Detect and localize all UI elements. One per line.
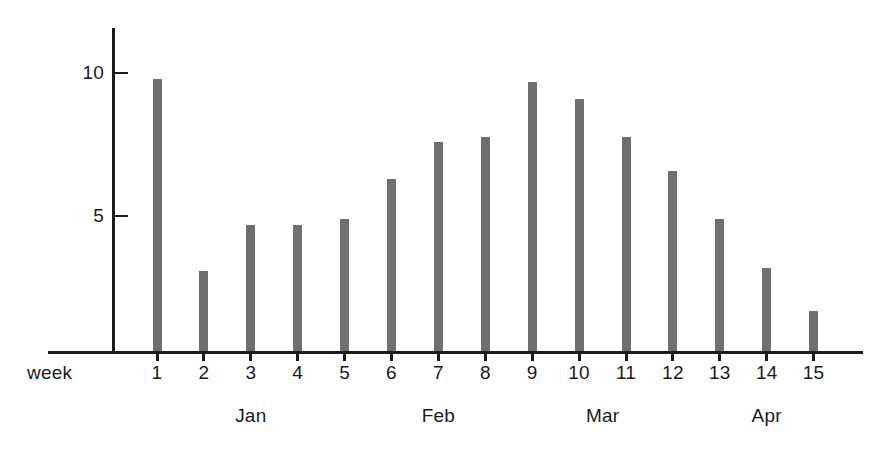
x-axis-tick: [343, 354, 346, 361]
x-axis-tick: [437, 354, 440, 361]
x-axis-tick-label: 8: [465, 362, 505, 384]
bar: [622, 137, 631, 352]
x-axis-tick-label: 13: [700, 362, 740, 384]
bar: [340, 219, 349, 351]
x-axis-tick-label: 3: [231, 362, 271, 384]
x-axis-tick: [765, 354, 768, 361]
x-axis-tick: [671, 354, 674, 361]
bar: [528, 82, 537, 351]
bar: [809, 311, 818, 351]
x-axis-tick: [156, 354, 159, 361]
month-label-mar: Mar: [543, 405, 663, 427]
bar: [293, 225, 302, 351]
x-axis-tick-label: 14: [747, 362, 787, 384]
x-axis-tick: [296, 354, 299, 361]
bar-chart: 10 5 123456789101112131415 week Jan Feb …: [0, 0, 890, 476]
x-axis-tick: [718, 354, 721, 361]
x-axis-tick-label: 11: [606, 362, 646, 384]
bar: [199, 271, 208, 351]
x-axis-tick: [390, 354, 393, 361]
x-axis-tick-label: 2: [184, 362, 224, 384]
x-axis-tick: [625, 354, 628, 361]
x-axis-tick: [578, 354, 581, 361]
x-axis-tick-label: 9: [512, 362, 552, 384]
bar: [762, 268, 771, 351]
x-axis-tick-label: 7: [418, 362, 458, 384]
month-label-jan: Jan: [191, 405, 311, 427]
month-label-feb: Feb: [378, 405, 498, 427]
bar: [668, 171, 677, 351]
bar: [153, 79, 162, 351]
x-axis-tick-label: 12: [653, 362, 693, 384]
bar: [387, 179, 396, 351]
x-axis-tick-label: 1: [137, 362, 177, 384]
x-axis-tick-label: 5: [325, 362, 365, 384]
x-axis-tick-label: 4: [278, 362, 318, 384]
x-axis-tick: [484, 354, 487, 361]
x-axis-tick: [812, 354, 815, 361]
x-axis-tick-label: 15: [794, 362, 834, 384]
x-axis-tick-label: 10: [559, 362, 599, 384]
bar: [434, 142, 443, 351]
x-axis-tick: [531, 354, 534, 361]
bar: [481, 137, 490, 352]
bar: [246, 225, 255, 351]
x-axis-tick-label: 6: [372, 362, 412, 384]
bar: [715, 219, 724, 351]
bar: [575, 99, 584, 351]
month-label-apr: Apr: [707, 405, 827, 427]
x-axis-tick: [202, 354, 205, 361]
x-axis-caption: week: [27, 362, 72, 384]
x-axis-tick: [249, 354, 252, 361]
